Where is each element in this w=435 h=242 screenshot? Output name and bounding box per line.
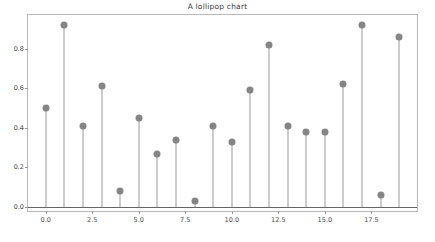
data-point-marker bbox=[191, 198, 198, 205]
y-tick-label: 0.0 bbox=[14, 203, 24, 211]
data-point-marker bbox=[42, 105, 49, 112]
x-tick-mark bbox=[325, 211, 326, 214]
stem-line bbox=[175, 140, 176, 207]
x-tick-mark bbox=[232, 211, 233, 214]
stem-line bbox=[101, 86, 102, 207]
data-point-marker bbox=[377, 192, 384, 199]
data-point-marker bbox=[135, 114, 142, 121]
data-point-marker bbox=[284, 122, 291, 129]
data-point-marker bbox=[340, 81, 347, 88]
stem-line bbox=[306, 132, 307, 207]
y-tick-label: 0.4 bbox=[14, 124, 24, 132]
x-tick-mark bbox=[278, 211, 279, 214]
data-point-marker bbox=[172, 136, 179, 143]
x-tick-label: 15.0 bbox=[318, 216, 332, 224]
x-tick-label: 10.0 bbox=[225, 216, 239, 224]
stem-line bbox=[45, 108, 46, 207]
data-point-marker bbox=[228, 138, 235, 145]
y-tick-mark bbox=[25, 207, 28, 208]
chart-figure: A lollipop chart 0.00.20.40.60.80.02.55.… bbox=[0, 0, 435, 242]
chart-title: A lollipop chart bbox=[0, 2, 435, 11]
stem-line bbox=[64, 25, 65, 207]
data-point-marker bbox=[61, 21, 68, 28]
baseline bbox=[28, 207, 417, 208]
x-tick-label: 2.5 bbox=[87, 216, 97, 224]
data-point-marker bbox=[79, 122, 86, 129]
y-tick-mark bbox=[25, 128, 28, 129]
stem-line bbox=[250, 90, 251, 207]
stem-line bbox=[343, 84, 344, 207]
x-tick-mark bbox=[139, 211, 140, 214]
data-point-marker bbox=[321, 128, 328, 135]
stem-line bbox=[138, 118, 139, 207]
x-tick-label: 17.5 bbox=[364, 216, 378, 224]
data-point-marker bbox=[98, 83, 105, 90]
data-point-marker bbox=[117, 188, 124, 195]
x-tick-mark bbox=[92, 211, 93, 214]
stem-line bbox=[399, 37, 400, 207]
y-tick-mark bbox=[25, 49, 28, 50]
data-point-marker bbox=[396, 33, 403, 40]
stem-line bbox=[231, 142, 232, 207]
stem-line bbox=[82, 126, 83, 207]
x-tick-mark bbox=[185, 211, 186, 214]
stem-line bbox=[362, 25, 363, 207]
data-point-marker bbox=[303, 128, 310, 135]
y-tick-mark bbox=[25, 167, 28, 168]
x-tick-label: 5.0 bbox=[134, 216, 144, 224]
y-tick-label: 0.6 bbox=[14, 84, 24, 92]
data-point-marker bbox=[154, 150, 161, 157]
stem-line bbox=[269, 45, 270, 207]
data-point-marker bbox=[210, 122, 217, 129]
x-tick-label: 7.5 bbox=[180, 216, 190, 224]
y-tick-mark bbox=[25, 88, 28, 89]
x-tick-label: 0.0 bbox=[41, 216, 51, 224]
data-point-marker bbox=[359, 21, 366, 28]
x-tick-mark bbox=[371, 211, 372, 214]
x-tick-mark bbox=[46, 211, 47, 214]
y-tick-label: 0.8 bbox=[14, 45, 24, 53]
stem-line bbox=[213, 126, 214, 207]
x-tick-label: 12.5 bbox=[271, 216, 285, 224]
plot-area bbox=[28, 15, 417, 211]
y-tick-label: 0.2 bbox=[14, 163, 24, 171]
stem-line bbox=[157, 154, 158, 207]
stem-line bbox=[287, 126, 288, 207]
plot-axes: 0.00.20.40.60.80.02.55.07.510.012.515.01… bbox=[27, 14, 418, 212]
data-point-marker bbox=[247, 87, 254, 94]
stem-line bbox=[324, 132, 325, 207]
data-point-marker bbox=[266, 41, 273, 48]
